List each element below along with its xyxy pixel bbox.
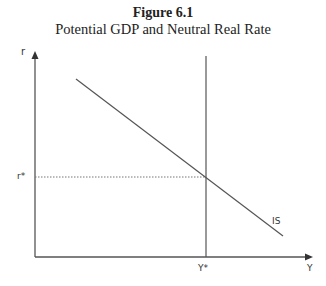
r-star-label: r* — [17, 171, 25, 181]
diagram-canvas — [0, 0, 326, 286]
x-axis-label: Y — [307, 263, 313, 273]
y-star-label: Y* — [198, 263, 208, 273]
y-axis-label: r — [21, 46, 25, 57]
y-axis-arrow-icon — [32, 51, 39, 59]
is-curve — [76, 79, 283, 236]
x-axis-arrow-icon — [305, 254, 313, 261]
is-curve-label: IS — [272, 216, 280, 226]
